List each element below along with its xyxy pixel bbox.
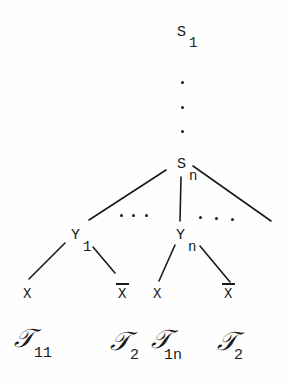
edge-y1-xbar: [93, 247, 115, 273]
node-yn-symbol: Y: [176, 228, 185, 243]
annotation-t2-b-subscript: 2: [234, 348, 243, 363]
leaf-x-1: X: [23, 287, 31, 301]
node-y1-subscript: 1: [83, 240, 91, 254]
negation-bar-1: [116, 283, 129, 285]
node-s1-subscript: 1: [189, 36, 197, 50]
annotation-t11-symbol: 𝒯: [14, 325, 34, 351]
leaf-xbar-2: X: [224, 287, 232, 301]
edge-y1-x: [29, 243, 65, 279]
edge-yn-xbar: [200, 246, 230, 282]
annotation-t11-subscript: 11: [34, 346, 52, 361]
negation-bar-2: [222, 283, 235, 285]
annotation-t1n-subscript: 1n: [164, 348, 182, 363]
edge-sn-right: [193, 166, 271, 221]
edge-yn-x: [159, 245, 175, 281]
node-y1-symbol: Y: [71, 228, 80, 243]
node-yn-subscript: n: [188, 240, 196, 254]
node-s1-symbol: S: [177, 25, 186, 40]
tree-diagram: S 1 S n Y 1 Y n X X X X 𝒯 11 𝒯 2 𝒯 1n 𝒯 …: [0, 0, 288, 384]
tree-edges: [0, 0, 288, 384]
annotation-t2-a-symbol: 𝒯: [110, 328, 130, 354]
node-sn-subscript: n: [189, 169, 197, 183]
edge-sn-y1: [89, 170, 166, 220]
edge-sn-yn: [180, 177, 181, 221]
leaf-xbar-1: X: [118, 287, 126, 301]
node-sn-symbol: S: [177, 157, 186, 172]
annotation-t2-a-subscript: 2: [130, 348, 139, 363]
leaf-x-2: X: [153, 287, 161, 301]
